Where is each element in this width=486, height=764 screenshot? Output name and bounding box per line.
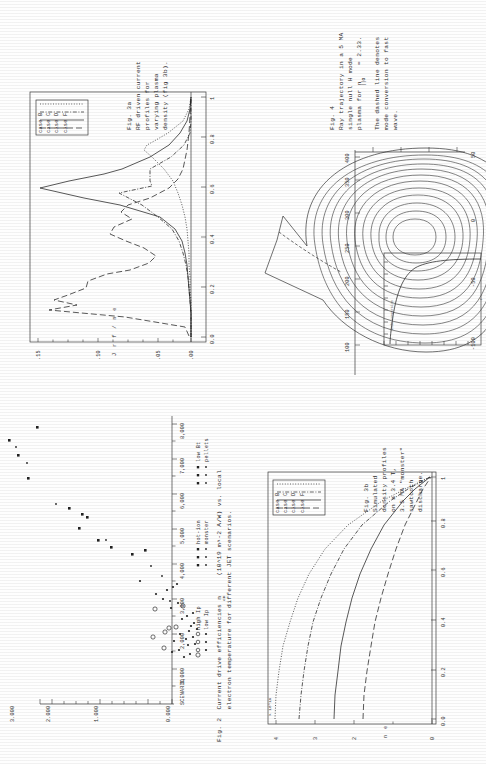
fig3b-series-caseD: [334, 477, 430, 719]
fig3a-legend-item-2: case D: [54, 113, 60, 133]
figure-fig3a: 0.0 0.2 0.4 0.6 0.8 1 .15 .10 .05 .00 J …: [0, 0, 243, 382]
fig3b-xtick-1: 0.2: [441, 667, 447, 677]
fig3b-caption-line-0: Fig. 3b: [363, 484, 372, 512]
fig4-rtick-4: 300: [345, 210, 351, 220]
fig3a-caption-line-3: varying plasma: [153, 73, 162, 130]
fig2-etick-3: 3.000: [10, 706, 16, 722]
fig3b-ytick-3: 0: [430, 737, 436, 740]
fig2-scenario-label: SCENARIO: [180, 679, 186, 705]
fig3a-caption-line-2: profiles for: [144, 81, 153, 130]
fig3b-caption-line-4: 3.5 MA "monster": [399, 447, 408, 512]
fig3b-xtick-0: 0.0: [441, 716, 447, 726]
fig2-ttick-6: 7,000: [180, 458, 186, 474]
fig4-caption-line-6: wave.: [392, 110, 401, 130]
fig3a-xtick-2: 0.4: [210, 234, 216, 244]
fig4-ztick-2: -50: [471, 277, 477, 287]
fig4-inset-curve: [390, 259, 481, 344]
fig3b-caption-line-6: discharge.: [417, 471, 426, 512]
fig4-caption-subscript: ||o: [361, 78, 366, 86]
fig3a-xtick-3: 0.6: [210, 184, 216, 194]
fig2-ttick-4: 5,000: [180, 528, 186, 544]
fig3a-xtick-1: 0.2: [210, 284, 216, 294]
fig3b-legend-item-1: case C: [283, 493, 289, 513]
fig2-etick-1: 1.000: [94, 706, 100, 722]
fig2-ttick-2: 3,000: [180, 598, 186, 614]
fig3b-caption-line-3: on a 3.4 T,: [390, 467, 399, 512]
fig3b-xtick-5: 1: [441, 477, 447, 480]
fig3b-legend-item-2: case D: [291, 493, 297, 513]
fig2-legend-label-2: hot-ion: [196, 520, 202, 544]
fig2-legend-label-1: low Ip: [204, 610, 210, 630]
fig2-ttick-5: 6,000: [180, 493, 186, 509]
fig2-legend-label-4: low Bt: [196, 442, 202, 462]
figure-fig3b: 0.0 0.2 0.4 0.6 0.8 1 4 3 2 0 n e x 10^1…: [243, 382, 486, 764]
fig3a-ytick-2: .05: [156, 350, 162, 360]
fig3b-series-caseC: [299, 477, 430, 719]
fig4-inset-y-label: mode conversion: [390, 300, 394, 330]
fig4-rtick-2: 200: [345, 276, 351, 286]
fig2-legend-label-5: pellets: [204, 438, 210, 462]
fig3b-ytick-2: 2: [352, 737, 358, 740]
fig3a-plot: [0, 0, 243, 382]
fig2-ttick-3: 4,000: [180, 563, 186, 579]
fig4-rtick-5: 350: [345, 177, 351, 187]
fig3a-xtick-5: 1: [210, 97, 216, 100]
fig2-caption-line-1: electron temperature for different JET s…: [226, 510, 235, 742]
fig3a-ytick-1: .10: [96, 350, 102, 360]
fig3b-yaxis-label: n e: [383, 724, 389, 738]
fig3b-caption-line-2: density profiles: [381, 447, 390, 512]
fig3a-caption-line-4: density (fig 3b).: [162, 61, 171, 130]
fig4-rtick-1: 150: [345, 309, 351, 319]
fig3a-yaxis-label: J r f / n e: [112, 306, 118, 356]
fig4-mode-conversion-dashed: [279, 232, 341, 272]
fig3b-legend-item-0: case B: [275, 493, 281, 513]
fig4-flux-contours: [314, 155, 486, 343]
fig3a-ytick-0: .15: [36, 350, 42, 360]
fig2-caption-line-0: Fig. 2 Current drive efficiencies n (10^…: [216, 470, 225, 742]
fig4-rtick-3: 250: [345, 243, 351, 253]
scanned-page: 0.0 0.2 0.4 0.6 0.8 1 .15 .10 .05 .00 J …: [0, 0, 486, 764]
fig2-legend-label-0: high Ip: [196, 606, 202, 630]
fig3b-yaxis-unit: x 10^19: [267, 698, 272, 716]
fig4-caption-line-0: Fig. 4: [329, 106, 338, 130]
fig3b-caption-line-5: sawtooth: [408, 479, 417, 512]
fig2-etick-2: 2.000: [46, 706, 52, 722]
fig3a-caption-line-1: RF driven current: [135, 61, 144, 130]
fig4-caption-line-4: The dashed line denotes: [374, 37, 383, 130]
fig3b-xtick-4: 0.8: [441, 518, 447, 528]
fig4-inset-x-label: r: [479, 298, 483, 300]
fig2-ttick-1: 2,000: [180, 633, 186, 649]
fig3b-plot: [243, 382, 486, 764]
fig4-caption-line-2: single null H mode: [347, 57, 356, 130]
fig3a-series-caseD: [40, 97, 191, 337]
fig3b-caption-line-1: Simulated: [372, 475, 381, 512]
fig3b-series-caseF: [363, 477, 431, 719]
fig2-ttick-7: 8,000: [180, 423, 186, 439]
fig3b-xtick-2: 0.4: [441, 617, 447, 627]
fig2-legend-label-3: monster: [204, 520, 210, 544]
figure-fig2: 1,000 2,000 3,000 4,000 5,000 6,000 7,00…: [0, 382, 243, 764]
fig4-caption-line-1: Ray trajectory in a 5 MA: [338, 32, 347, 130]
fig3a-xtick-4: 0.8: [210, 134, 216, 144]
fig3a-legend-item-3: case F: [63, 113, 69, 133]
fig4-ztick-1: 0: [471, 219, 477, 222]
fig3a-legend-item-0: case B: [38, 113, 44, 133]
fig4-ztick-3: -100: [471, 337, 477, 350]
fig4-rtick-0: 100: [345, 342, 351, 352]
fig3a-series-caseB: [144, 97, 191, 337]
fig3a-legend-item-1: case C: [46, 113, 52, 133]
fig3a-ytick-3: .00: [189, 350, 195, 360]
fig3b-series-caseB: [275, 477, 430, 719]
fig3a-xtick-0: 0.0: [210, 334, 216, 344]
fig3b-ytick-1: 3: [313, 737, 319, 740]
figure-fig4: 50 0 -50 -100 100 150 200 250 300 350 40…: [243, 0, 486, 382]
fig2-etick-0: 0.000: [166, 706, 172, 722]
fig4-inset: [384, 253, 481, 345]
fig4-caption-line-5: mode conversion to fast: [383, 37, 392, 130]
fig3a-caption-line-0: Fig. 3a: [126, 102, 135, 130]
fig3b-xtick-3: 0.6: [441, 567, 447, 577]
fig4-rtick-6: 400: [345, 153, 351, 163]
fig2-points: [8, 426, 200, 658]
fig3a-series-caseF: [49, 97, 191, 336]
fig4-ztick-0: 50: [471, 151, 477, 158]
